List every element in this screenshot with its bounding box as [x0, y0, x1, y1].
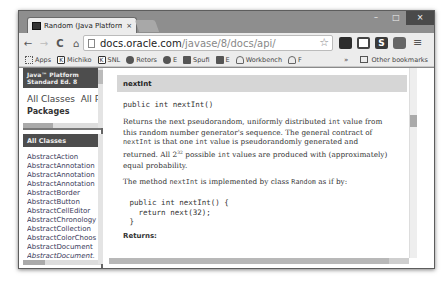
bookmark-apps[interactable]: Apps	[25, 56, 51, 64]
scrollbar-thumb[interactable]	[410, 115, 417, 127]
extension-round-icon[interactable]	[393, 37, 406, 49]
classes-vertical-scrollbar[interactable]	[98, 134, 103, 264]
packages-vertical-scrollbar[interactable]	[98, 68, 103, 128]
class-link[interactable]: AbstractAnnotation	[27, 162, 97, 171]
bookmark-e2[interactable]: E	[216, 56, 230, 64]
banner-line2: Standard Ed. 8	[27, 78, 97, 85]
class-link[interactable]: AbstractCellEditor	[27, 207, 97, 216]
page-content: Java™ Platform Standard Ed. 8 All Classe…	[19, 68, 434, 268]
banner-line1: Java™ Platform	[27, 71, 97, 78]
text: is that one	[152, 137, 196, 146]
bookmark-label: F	[298, 56, 302, 64]
text: Returns the next pseudorandom, uniformly…	[123, 117, 328, 126]
class-link[interactable]: AbstractBorder	[27, 189, 97, 198]
code: nextInt	[169, 178, 198, 186]
extensions-area: S ≡	[339, 36, 422, 49]
scrollbar-thumb[interactable]	[23, 260, 45, 265]
classes-frame: All Classes AbstractActionAbstractAnnota…	[23, 134, 101, 268]
scrollbar-thumb[interactable]	[109, 258, 389, 264]
new-tab-button[interactable]	[135, 20, 159, 32]
browser-tab[interactable]: Random (Java Platform SE ×	[27, 17, 137, 34]
text: is implemented by class	[198, 177, 291, 186]
bookmark-label: Spufi	[193, 56, 209, 64]
class-link[interactable]: AbstractCollection	[27, 225, 97, 234]
title-bar: Random (Java Platform SE × – □ ×	[19, 11, 434, 33]
code: nextInt	[123, 138, 152, 146]
extension-dark-icon[interactable]	[339, 37, 352, 49]
bookmarks-bar: Apps KMichiko KSNL Retors E Spufi E Work…	[19, 53, 434, 67]
f-icon	[183, 56, 191, 64]
main-vertical-scrollbar[interactable]	[409, 68, 417, 258]
browser-toolbar: ← → C ⌂ docs.oracle.com/javase/8/docs/ap…	[19, 33, 434, 53]
f-icon	[216, 56, 224, 64]
bookmark-e[interactable]: E	[163, 56, 177, 64]
url-path: /javase/8/docs/api/	[182, 38, 276, 49]
s-extension-icon[interactable]: S	[375, 37, 388, 49]
ext-icon	[163, 56, 171, 64]
class-link[interactable]: AbstractButton	[27, 198, 97, 207]
k-icon: K	[57, 56, 65, 64]
packages-horizontal-scrollbar[interactable]	[23, 123, 101, 128]
bookmark-label: Retors	[136, 56, 157, 64]
scrollbar-thumb[interactable]	[23, 123, 53, 128]
close-window-button[interactable]: ×	[406, 11, 434, 25]
main-horizontal-scrollbar[interactable]	[109, 258, 409, 264]
bookmark-star-icon[interactable]: ☆	[319, 36, 329, 49]
cast-icon[interactable]	[357, 37, 370, 49]
browser-window: Random (Java Platform SE × – □ × ← → C ⌂…	[18, 10, 435, 269]
menu-icon[interactable]: ≡	[413, 36, 422, 49]
class-link[interactable]: AbstractChronology	[27, 216, 97, 225]
class-link[interactable]: AbstractAnnotation	[27, 171, 97, 180]
cloud-icon	[288, 56, 296, 64]
forward-button[interactable]: →	[37, 38, 51, 49]
scrollbar-thumb[interactable]	[98, 70, 103, 84]
returns-label: Returns:	[123, 232, 427, 240]
bookmark-spufi[interactable]: Spufi	[183, 56, 209, 64]
bookmark-label: SNL	[108, 56, 121, 64]
code-sample: public int nextInt() { return next(32); …	[125, 198, 427, 227]
bookmark-retors[interactable]: Retors	[126, 56, 157, 64]
window-controls: – □ ×	[366, 11, 434, 25]
text: The method	[123, 177, 169, 186]
class-link[interactable]: AbstractAnnotation	[27, 180, 97, 189]
back-button[interactable]: ←	[21, 38, 35, 49]
packages-frame: Java™ Platform Standard Ed. 8 All Classe…	[23, 68, 101, 130]
code: int	[195, 138, 207, 146]
text: as if by:	[316, 177, 347, 186]
class-list: AbstractActionAbstractAnnotationAbstract…	[23, 147, 101, 261]
folder-icon	[360, 56, 368, 63]
url-host: docs.oracle.com	[100, 38, 182, 49]
all-classes-banner: All Classes	[23, 134, 101, 147]
all-classes-link[interactable]: All Classes	[27, 94, 75, 104]
address-bar[interactable]: docs.oracle.com/javase/8/docs/api/ ☆	[83, 35, 333, 51]
home-button[interactable]: ⌂	[69, 38, 83, 49]
reload-button[interactable]: C	[53, 38, 67, 49]
class-link[interactable]: AbstractAction	[27, 153, 97, 162]
tab-close-icon[interactable]: ×	[126, 22, 132, 30]
class-link[interactable]: AbstractDocument	[27, 243, 97, 252]
bookmark-workbench[interactable]: Workbench	[236, 56, 282, 64]
minimize-button[interactable]: –	[366, 11, 386, 25]
bookmark-label: Workbench	[246, 56, 282, 64]
bookmark-snl[interactable]: KSNL	[98, 56, 121, 64]
frame-links: All Classes All P	[23, 88, 101, 104]
code: int	[218, 151, 230, 159]
left-navigation: Java™ Platform Standard Ed. 8 All Classe…	[23, 68, 103, 268]
code: Random	[291, 178, 316, 186]
classes-horizontal-scrollbar[interactable]	[23, 260, 101, 265]
page-icon	[88, 39, 95, 48]
text: possible	[183, 150, 218, 159]
maximize-button[interactable]: □	[386, 11, 406, 25]
packages-heading: Packages	[23, 104, 101, 119]
bookmark-label: Apps	[35, 56, 51, 64]
java-platform-banner: Java™ Platform Standard Ed. 8	[23, 68, 101, 88]
other-bookmarks-label: Other bookmarks	[371, 56, 428, 64]
method-description: Returns the next pseudorandom, uniformly…	[123, 117, 393, 170]
class-link[interactable]: AbstractColorChoos	[27, 234, 97, 243]
more-bookmarks-button[interactable]: »	[344, 56, 348, 64]
other-bookmarks[interactable]: Other bookmarks	[360, 56, 428, 64]
bookmark-f[interactable]: F	[288, 56, 302, 64]
code: int	[328, 118, 340, 126]
bookmark-michiko[interactable]: KMichiko	[57, 56, 91, 64]
k-icon: K	[98, 56, 106, 64]
